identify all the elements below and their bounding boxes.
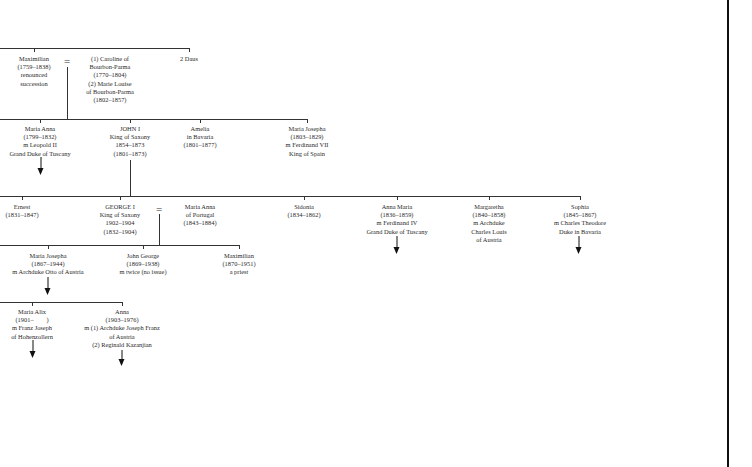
person-margaretha: Margaretha (1840–1858) m Archduke Charle… bbox=[471, 203, 507, 244]
spouse-title: King of Spain bbox=[286, 150, 329, 158]
name: JOHN I bbox=[110, 125, 150, 133]
spouse: m Leopold II bbox=[9, 141, 70, 149]
dates: (1834–1862) bbox=[287, 211, 320, 219]
tick-maximilian-priest bbox=[239, 245, 240, 249]
tick-george bbox=[120, 196, 121, 200]
name: John George bbox=[119, 252, 166, 260]
tick-ernest bbox=[22, 196, 23, 200]
spouse-1-house: Bourbon-Parma bbox=[86, 63, 134, 71]
descendants-arrow-icon bbox=[393, 236, 402, 254]
page-edge-line bbox=[727, 0, 729, 467]
title: in Bavaria bbox=[183, 133, 216, 141]
spouse-1-house: of Austria bbox=[84, 333, 160, 341]
dates: (1803–1829) bbox=[286, 133, 329, 141]
spouse-1-dates: (1770–1804) bbox=[86, 71, 134, 79]
name: Maria Alix bbox=[11, 308, 53, 316]
descent-line-gen2 bbox=[130, 160, 131, 196]
dates: (1870–1951) bbox=[222, 260, 255, 268]
title: King of Saxony bbox=[100, 211, 140, 219]
tick-john-george bbox=[143, 245, 144, 249]
dates: (1901– ) bbox=[11, 316, 53, 324]
note: m twice (no issue) bbox=[119, 268, 166, 276]
dates: (1867–1944) bbox=[12, 260, 83, 268]
house: of Portugal bbox=[183, 211, 216, 219]
name: 2 Daus bbox=[180, 55, 198, 63]
person-amelia: Amelia in Bavaria (1801–1877) bbox=[183, 125, 216, 150]
tick-maria-anna bbox=[40, 119, 41, 123]
person-anna-maria: Anna Maria (1836–1859) m Ferdinand IV Gr… bbox=[366, 203, 427, 236]
name: Ernest bbox=[5, 203, 38, 211]
tick-anna-maria bbox=[397, 196, 398, 200]
gen3-sibling-line bbox=[0, 196, 581, 197]
person-george-i: GEORGE I King of Saxony 1902–1904 (1832–… bbox=[100, 203, 140, 236]
name: Sophia bbox=[554, 203, 606, 211]
dates: (1845–1867) bbox=[554, 211, 606, 219]
spouse: m Charles Theodore bbox=[554, 219, 606, 227]
tick-margaretha bbox=[489, 196, 490, 200]
person-john-i: JOHN I King of Saxony 1854–1873 (1801–18… bbox=[110, 125, 150, 158]
spouse-title: Grand Duke of Tuscany bbox=[366, 228, 427, 236]
dates: (1832–1904) bbox=[100, 228, 140, 236]
spouse: m Archduke bbox=[471, 219, 507, 227]
dates: (1843–1884) bbox=[183, 219, 216, 227]
spouse-2-house: of Bourbon-Parma bbox=[86, 88, 134, 96]
dates: (1801–1877) bbox=[183, 141, 216, 149]
person-john-george: John George (1869–1938) m twice (no issu… bbox=[119, 252, 166, 277]
name: Maria Josepha bbox=[286, 125, 329, 133]
descendants-arrow-icon bbox=[118, 350, 127, 366]
title: King of Saxony bbox=[110, 133, 150, 141]
tick-maria-josepha-austria bbox=[48, 245, 49, 249]
person-maria-anna-portugal: Maria Anna of Portugal (1843–1884) bbox=[183, 203, 216, 228]
name: Anna bbox=[84, 308, 160, 316]
name: Sidonia bbox=[287, 203, 320, 211]
tick-sophia bbox=[580, 196, 581, 200]
spouse-1: m (1) Archduke Joseph Franz bbox=[84, 324, 160, 332]
spouse-1-name: (1) Caroline of bbox=[86, 55, 134, 63]
spouse-name: Charles Louis bbox=[471, 228, 507, 236]
name: Maria Anna bbox=[9, 125, 70, 133]
tick-john bbox=[130, 119, 131, 123]
gen2-sibling-line bbox=[0, 119, 308, 120]
dates: (1836–1859) bbox=[366, 211, 427, 219]
dates: (1840–1858) bbox=[471, 211, 507, 219]
name: Maria Anna bbox=[183, 203, 216, 211]
spouse-house: of Austria bbox=[471, 236, 507, 244]
dates: (1831–1847) bbox=[5, 211, 38, 219]
person-sophia: Sophia (1845–1867) m Charles Theodore Du… bbox=[554, 203, 606, 236]
descent-line-gen1 bbox=[67, 67, 68, 119]
spouse-title: Duke in Bavaria bbox=[554, 228, 606, 236]
spouse: m Archduke Otto of Austria bbox=[12, 268, 83, 276]
spouse: m Ferdinand VII bbox=[286, 141, 329, 149]
person-maria-josepha-spain: Maria Josepha (1803–1829) m Ferdinand VI… bbox=[286, 125, 329, 158]
name: Anna Maria bbox=[366, 203, 427, 211]
person-anna: Anna (1903–1976) m (1) Archduke Joseph F… bbox=[84, 308, 160, 349]
name: Maximilian bbox=[222, 252, 255, 260]
name: GEORGE I bbox=[100, 203, 140, 211]
person-maximilian-priest: Maximilian (1870–1951) a priest bbox=[222, 252, 255, 277]
descent-line-gen3 bbox=[159, 214, 160, 245]
marriage-symbol: = bbox=[156, 205, 162, 213]
person-maria-anna: Maria Anna (1799–1832) m Leopold II Gran… bbox=[9, 125, 70, 158]
tick-maria-alix bbox=[32, 302, 33, 306]
descendants-arrow-icon bbox=[37, 157, 46, 175]
tick-sidonia bbox=[304, 196, 305, 200]
marriage-symbol: = bbox=[64, 57, 70, 65]
note: succession bbox=[17, 80, 50, 88]
reign: 1854–1873 bbox=[110, 141, 150, 149]
gen5-sibling-line bbox=[0, 302, 123, 303]
spouse-2: (2) Reginald Kazanjian bbox=[84, 341, 160, 349]
name: Margaretha bbox=[471, 203, 507, 211]
dates: (1799–1832) bbox=[9, 133, 70, 141]
name: Maximilian bbox=[17, 55, 50, 63]
dates: (1869–1938) bbox=[119, 260, 166, 268]
dates: (1801–1873) bbox=[110, 150, 150, 158]
spouse: m Ferdinand IV bbox=[366, 219, 427, 227]
person-maria-alix: Maria Alix (1901– ) m Franz Joseph of Ho… bbox=[11, 308, 53, 341]
gen1-sibling-line bbox=[0, 48, 190, 49]
tick-2-daus bbox=[189, 48, 190, 52]
person-ernest: Ernest (1831–1847) bbox=[5, 203, 38, 219]
spouse-2-name: (2) Marie Louise bbox=[86, 80, 134, 88]
gen4-sibling-line bbox=[0, 245, 240, 246]
reign: 1902–1904 bbox=[100, 219, 140, 227]
descendants-arrow-icon bbox=[44, 277, 53, 295]
